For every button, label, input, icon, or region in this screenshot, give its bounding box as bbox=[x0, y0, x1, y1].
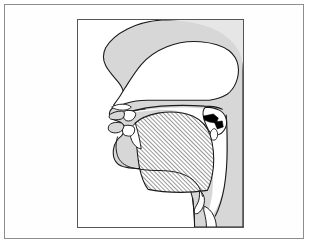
screenshot-root: Mid-sagittal section of the human vocal … bbox=[0, 0, 310, 245]
lower-lip bbox=[108, 122, 124, 133]
figure-panel bbox=[77, 19, 244, 228]
tongue-body bbox=[135, 112, 213, 192]
upper-teeth bbox=[123, 110, 135, 121]
outer-frame-border bbox=[4, 4, 304, 239]
sagittal-vocal-tract-figure bbox=[78, 20, 243, 227]
